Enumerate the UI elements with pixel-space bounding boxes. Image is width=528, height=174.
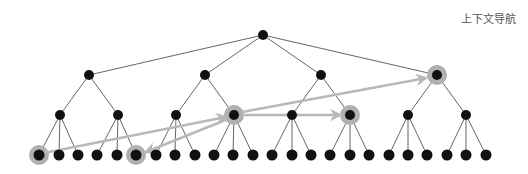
tree-node-level2 [287, 110, 297, 120]
tree-node-leaf [461, 150, 472, 161]
tree-edges [39, 35, 486, 155]
tree-node-leaf [131, 150, 142, 161]
tree-diagram [0, 0, 528, 174]
tree-node-level1 [200, 70, 210, 80]
tree-node-leaf [287, 150, 298, 161]
tree-node-level2 [55, 110, 65, 120]
tree-node-leaf [403, 150, 414, 161]
nav-arrow [242, 78, 426, 112]
tree-node-root [258, 30, 268, 40]
tree-node-level1 [432, 70, 442, 80]
tree-node-leaf [267, 150, 278, 161]
tree-node-level1 [316, 70, 326, 80]
tree-node-leaf [422, 150, 433, 161]
tree-node-leaf [384, 150, 395, 161]
tree-node-level2 [171, 110, 181, 120]
tree-node-leaf [325, 150, 336, 161]
tree-node-leaf [248, 150, 259, 161]
tree-node-leaf [209, 150, 220, 161]
tree-node-leaf [151, 150, 162, 161]
tree-node-leaf [442, 150, 453, 161]
tree-node-leaf [306, 150, 317, 161]
tree-node-leaf [34, 150, 45, 161]
tree-node-leaf [481, 150, 492, 161]
tree-node-level2 [113, 110, 123, 120]
tree-node-level2 [403, 110, 413, 120]
tree-node-leaf [92, 150, 103, 161]
tree-node-leaf [54, 150, 65, 161]
tree-node-leaf [112, 150, 123, 161]
tree-node-level2 [345, 110, 355, 120]
tree-node-level2 [461, 110, 471, 120]
tree-node-leaf [190, 150, 201, 161]
tree-node-leaf [73, 150, 84, 161]
tree-node-leaf [345, 150, 356, 161]
tree-node-leaf [228, 150, 239, 161]
tree-node-leaf [364, 150, 375, 161]
tree-node-level1 [84, 70, 94, 80]
tree-node-leaf [170, 150, 181, 161]
tree-node-level2 [229, 110, 239, 120]
